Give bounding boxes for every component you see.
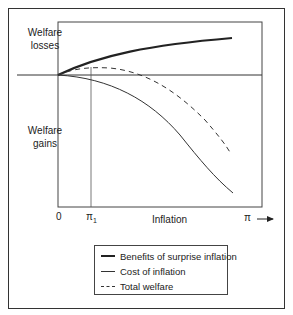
legend: Benefits of surprise inflation Cost of i… — [94, 245, 228, 295]
legend-item-benefits: Benefits of surprise inflation — [101, 249, 237, 263]
benefits-curve — [58, 38, 232, 75]
legend-swatch-thin — [101, 271, 115, 272]
total-welfare-curve — [58, 68, 231, 154]
arrow-icon — [267, 216, 274, 222]
legend-swatch-dashed — [101, 286, 115, 287]
x-tick-origin: 0 — [56, 211, 62, 222]
legend-swatch-thick — [101, 255, 115, 257]
x-tick-pi1: π1 — [86, 211, 97, 224]
cost-curve — [58, 75, 233, 193]
x-axis-label: Inflation — [152, 214, 187, 225]
y-label-gains: Welfare gains — [20, 124, 70, 150]
legend-item-cost: Cost of inflation — [101, 264, 185, 278]
x-axis-end-label: π — [244, 212, 251, 223]
y-label-losses: Welfare losses — [20, 26, 70, 52]
legend-item-total: Total welfare — [101, 279, 173, 293]
